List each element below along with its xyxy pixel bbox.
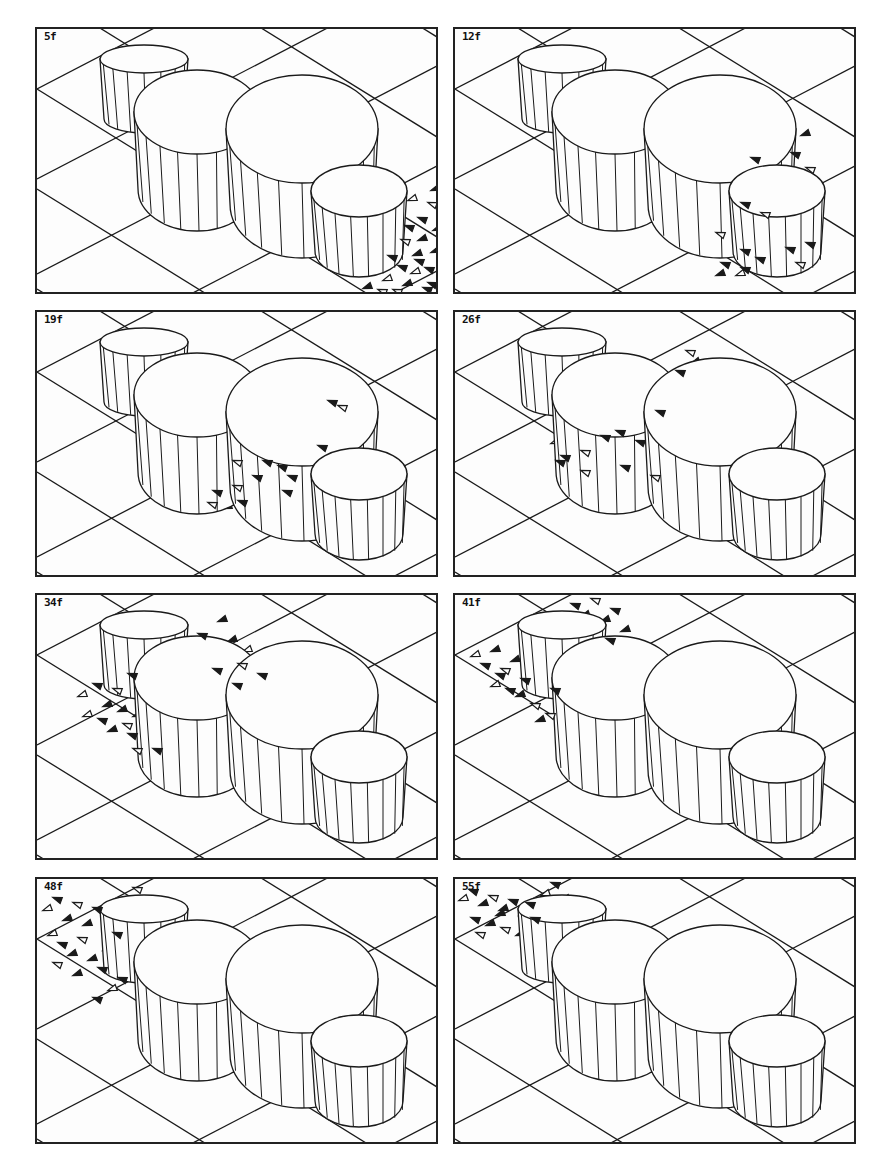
frame-panel-55f: 55f — [453, 877, 856, 1144]
boid-icon — [620, 626, 631, 635]
boid-icon — [82, 920, 93, 929]
boid-icon — [42, 905, 53, 914]
boid-icon — [92, 681, 103, 690]
boid-icon — [217, 616, 228, 625]
boid-icon — [77, 691, 88, 700]
boid-icon — [570, 601, 581, 610]
boid-icon — [715, 270, 726, 279]
boid-icon — [508, 897, 519, 906]
frame-label: 5f — [44, 30, 56, 43]
boid-icon — [590, 596, 601, 605]
boid-icon — [427, 200, 438, 209]
frame-label: 19f — [44, 313, 62, 326]
cylinder-4 — [729, 1015, 825, 1127]
boid-icon — [495, 671, 506, 680]
boid-icon — [500, 925, 511, 934]
boid-icon — [410, 268, 421, 277]
frame-label: 48f — [44, 880, 62, 893]
boid-icon — [510, 656, 521, 665]
frame-panel-19f: 19f — [35, 310, 438, 577]
boid-icon — [87, 955, 98, 964]
boid-icon — [735, 270, 746, 279]
boid-icon — [430, 247, 438, 256]
frame-panel-48f: 48f — [35, 877, 438, 1144]
boid-icon — [57, 940, 68, 949]
boid-icon — [475, 930, 486, 939]
boid-icon — [480, 661, 491, 670]
frame-panel-12f: 12f — [453, 27, 856, 294]
boid-icon — [417, 215, 428, 224]
boid-icon — [470, 651, 481, 660]
cylinder-4 — [311, 165, 407, 277]
cylinder-4 — [311, 1015, 407, 1127]
boid-icon — [382, 275, 393, 284]
boid-icon — [422, 285, 433, 294]
boid-icon — [685, 348, 696, 357]
frame-label: 26f — [462, 313, 480, 326]
frame-panel-26f: 26f — [453, 310, 856, 577]
boid-icon — [72, 970, 83, 979]
cylinder-4 — [729, 165, 825, 277]
boid-icon — [412, 250, 423, 259]
cylinder-4 — [311, 731, 407, 843]
frame-label: 12f — [462, 30, 480, 43]
boid-icon — [720, 260, 731, 269]
boid-icon — [407, 195, 418, 204]
boid-icon — [77, 935, 88, 944]
boid-icon — [490, 681, 501, 690]
boid-icon — [127, 731, 138, 740]
boid-icon — [397, 263, 408, 272]
boid-icon — [470, 915, 481, 924]
frame-label: 34f — [44, 596, 62, 609]
boid-icon — [535, 716, 546, 725]
boid-icon — [52, 960, 63, 969]
frame-panel-5f: 5f — [35, 27, 438, 294]
frame-panel-41f: 41f — [453, 593, 856, 860]
boid-icon — [478, 900, 489, 909]
boid-icon — [610, 606, 621, 615]
boid-icon — [82, 711, 93, 720]
boid-icon — [430, 185, 438, 194]
frame-label: 41f — [462, 596, 480, 609]
boid-icon — [488, 893, 499, 902]
boid-icon — [117, 706, 128, 715]
frame-panel-34f: 34f — [35, 593, 438, 860]
boid-icon — [800, 130, 811, 139]
cylinder-4 — [311, 448, 407, 560]
boid-icon — [107, 726, 118, 735]
boid-icon — [432, 225, 438, 234]
boid-icon — [122, 721, 133, 730]
boid-icon — [392, 287, 403, 294]
boid-icon — [424, 265, 435, 274]
boid-icon — [458, 895, 469, 904]
boid-icon — [72, 900, 83, 909]
cylinder-4 — [729, 731, 825, 843]
boid-icon — [414, 257, 425, 266]
boid-icon — [52, 895, 63, 904]
boid-icon — [417, 235, 428, 244]
frame-label: 55f — [462, 880, 480, 893]
cylinder-4 — [729, 448, 825, 560]
boid-icon — [362, 283, 373, 292]
boid-icon — [490, 646, 501, 655]
boid-icon — [97, 716, 108, 725]
boid-icon — [67, 950, 78, 959]
boid-icon — [377, 287, 388, 294]
figure: 5f12f19f26f34f41f48f55f — [0, 0, 880, 1164]
